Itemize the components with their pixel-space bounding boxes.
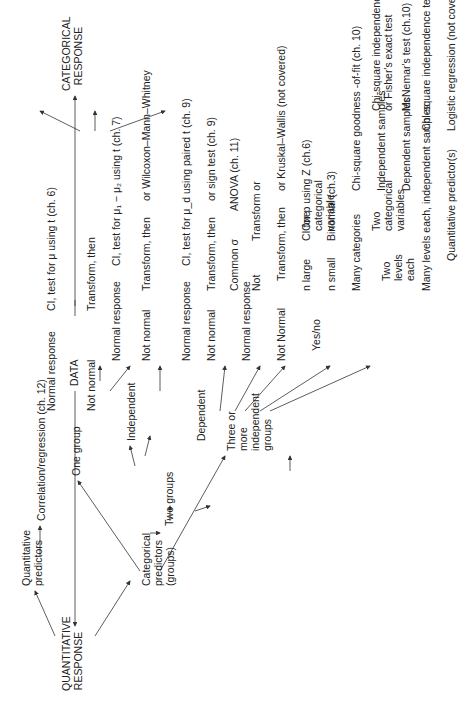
two-groups: Two groups — [163, 472, 175, 526]
n-small-result: Binomial (ch.3) — [325, 171, 337, 241]
indep-transform: Transform, then — [140, 217, 152, 291]
one-group-normal: Normal response — [45, 331, 57, 411]
n-large: n large — [300, 259, 312, 291]
dep-transform: Transform, then — [205, 217, 217, 291]
indep-not-normal: Not normal — [140, 310, 152, 361]
common-sigma: Common σ — [228, 239, 240, 291]
yes-no: Yes/no — [310, 319, 322, 351]
indep-normal: Normal response — [110, 281, 122, 361]
one-group-not-normal: Not normal — [85, 360, 97, 411]
quant-predictors: Quantitative predictors — [20, 526, 44, 586]
indep-result: CI, test for μ₁ − μ₂ using t (ch. 7) — [110, 116, 122, 266]
three-transform: Transform, then — [275, 207, 287, 281]
one-group-result: CI, test for μ using t (ch. 6) — [45, 187, 57, 311]
many-categories: Many categories — [350, 214, 362, 291]
dependent: Dependent — [195, 390, 207, 441]
transform-or: Transform or — [250, 181, 262, 241]
dep-samples: Dependent samples — [400, 98, 412, 191]
anova: ANOVA (ch. 11) — [228, 138, 240, 211]
indep-alt: or Wilcoxon–Mann–Whitney — [140, 70, 152, 201]
kruskal-wallis: or Kruskal–Wallis (not covered) — [275, 46, 287, 192]
n-small: n small — [325, 258, 337, 291]
fisher: or Fisher's exact test — [382, 14, 394, 111]
not-common: Not — [250, 275, 262, 291]
chisq-2x2: Chi-square independence test for 2 × 2 (… — [370, 0, 382, 111]
categorical-response: CATEGORICAL RESPONSE — [60, 21, 84, 91]
logistic: Logistic regression (not covered) — [445, 0, 457, 131]
three-not-normal: Not Normal — [275, 308, 287, 361]
many-levels: Many levels each, independent samples — [420, 104, 432, 291]
flowchart: DATA QUANTITATIVE RESPONSE CATEGORICAL R… — [0, 0, 473, 711]
one-group: One group — [70, 426, 82, 476]
three-plus-groups: Three or more independent groups — [225, 391, 273, 451]
dep-normal: Normal response — [180, 281, 192, 361]
goodness-of-fit: Chi-square goodness -of-fit (ch. 10) — [350, 26, 362, 191]
quantitative-response: QUANTITATIVE RESPONSE — [60, 631, 84, 691]
independent: Independent — [125, 383, 137, 441]
root-node: DATA — [68, 360, 80, 386]
dep-not-normal: Not normal — [205, 310, 217, 361]
dep-alt: or sign test (ch. 9) — [205, 117, 217, 201]
quant-predictor: Quantitative predictor(s) — [445, 149, 457, 261]
categorical-predictors: Categorical predictors (groups) — [140, 526, 176, 586]
one-group-transform: Transform, then — [85, 237, 97, 311]
mcnemar: McNemar's test (ch.10) — [400, 3, 412, 111]
three-normal: Normal response — [240, 281, 252, 361]
chisq-rxk: Chi-square independence test for r × k (… — [420, 0, 432, 131]
two-levels: Two levels each — [380, 241, 416, 281]
dep-result: CI, test for μ_d using paired t (ch. 9) — [180, 98, 192, 266]
n-large-result: CI for p using Z (ch.6) — [300, 139, 312, 241]
